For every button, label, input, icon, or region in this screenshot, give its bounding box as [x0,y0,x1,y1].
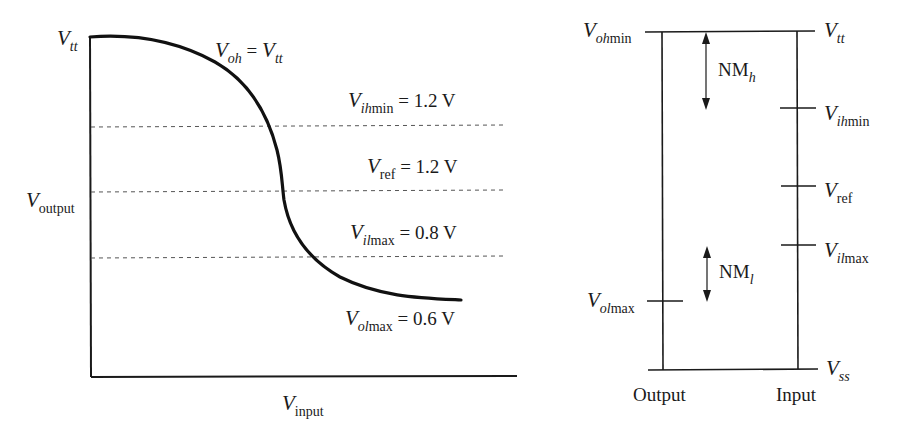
vtt-label: Vtt [824,20,845,46]
vss-label: Vss [826,358,850,384]
input-column-label: Input [776,385,816,404]
vilmax-level-label: Vilmax = 0.8 V [350,222,457,248]
vihmin-dashed-line [91,125,506,127]
vohmin-label: Vohmin [583,20,632,46]
volmax-label: Volmax [587,290,635,316]
y-axis-label: Voutput [26,190,75,216]
vihmin-level-label: Vihmin = 1.2 V [348,90,456,116]
vilmax-dashed-line [91,256,506,258]
vihmin-label: Vihmin [824,103,870,129]
curve-label: Voh = Vtt [215,40,283,66]
nm-high-arrow [702,32,710,110]
output-column-label: Output [633,385,686,404]
vref-dashed-line [91,190,506,192]
x-axis-label: Vinput [282,393,324,419]
vref-label: Vref [824,180,852,206]
nm-low-label: NMl [719,262,754,287]
nm-low-arrow [703,246,711,302]
diagram-graphics [0,0,902,431]
volmax-level-label: Volmax = 0.6 V [345,308,455,334]
vtt-axis-label: Vtt [57,28,78,54]
nm-high-label: NMh [718,60,756,85]
vilmax-label: Vilmax [824,240,869,266]
vref-level-label: Vref = 1.2 V [367,156,457,182]
